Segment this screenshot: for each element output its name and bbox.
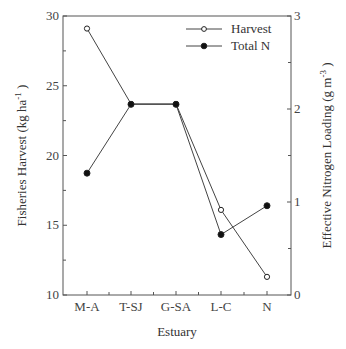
right-tick-label: 3	[294, 8, 301, 23]
left-tick-label: 10	[46, 287, 59, 302]
plot-frame	[63, 16, 291, 295]
legend-harvest-label: Harvest	[231, 21, 272, 36]
left-tick-label: 25	[46, 78, 59, 93]
filled-circle-marker	[84, 170, 90, 176]
filled-circle-marker	[264, 203, 270, 209]
left-axis-title: Fisheries Harvest (kg ha-1 )	[13, 85, 29, 227]
right-tick-label: 0	[294, 287, 301, 302]
filled-circle-marker	[218, 232, 224, 238]
series-line-total-n	[87, 104, 267, 234]
series-line-harvest	[87, 29, 267, 277]
left-tick-label: 20	[46, 148, 59, 163]
x-tick-label: L-C	[211, 299, 232, 314]
open-circle-marker	[264, 274, 269, 279]
open-circle-marker	[218, 207, 223, 212]
x-tick-label: G-SA	[161, 299, 192, 314]
legend-harvest-marker	[202, 27, 207, 32]
left-tick-label: 15	[46, 217, 59, 232]
filled-circle-marker	[173, 101, 179, 107]
legend-totaln-label: Total N	[231, 38, 271, 53]
legend-totaln-marker	[201, 43, 207, 49]
right-tick-label: 2	[294, 101, 301, 116]
legend: HarvestTotal N	[186, 21, 272, 53]
dual-axis-line-chart: 10152025300123M-AT-SJG-SAL-CNEstuaryFish…	[0, 0, 346, 349]
left-tick-label: 30	[46, 8, 59, 23]
x-tick-label: N	[262, 299, 272, 314]
right-axis-title: Effective Nitrogen Loading (g m-3 )	[318, 63, 334, 249]
filled-circle-marker	[128, 101, 134, 107]
open-circle-marker	[84, 26, 89, 31]
chart-container: 10152025300123M-AT-SJG-SAL-CNEstuaryFish…	[0, 0, 346, 349]
x-tick-label: M-A	[74, 299, 100, 314]
x-axis-title: Estuary	[157, 324, 197, 339]
x-tick-label: T-SJ	[119, 299, 142, 314]
right-tick-label: 1	[294, 194, 301, 209]
